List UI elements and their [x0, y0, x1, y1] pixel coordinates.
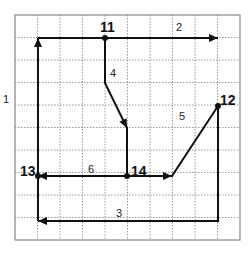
- node-label-11: 11: [100, 20, 115, 34]
- edge-1: [34, 38, 42, 221]
- arrowhead-icon: [34, 38, 42, 47]
- edge-2: [38, 34, 218, 42]
- node-label-13: 13: [20, 164, 36, 178]
- arrowhead-icon: [163, 172, 172, 180]
- node-14: [124, 173, 130, 179]
- graph-diagram: 12345611121314: [0, 0, 252, 262]
- edge-label-5: 5: [179, 111, 185, 122]
- edge-4: [105, 38, 127, 176]
- edge-6: [38, 172, 127, 180]
- node-label-12: 12: [220, 93, 236, 107]
- edge-label-6: 6: [88, 164, 94, 175]
- diagram-canvas: [0, 0, 252, 262]
- node-11: [102, 35, 108, 41]
- arrowhead-icon: [38, 217, 47, 225]
- edge-label-2: 2: [176, 22, 182, 33]
- node-label-14: 14: [131, 164, 147, 178]
- edge-label-4: 4: [110, 68, 116, 79]
- edge-path: [105, 38, 127, 176]
- arrowhead-icon: [209, 34, 218, 42]
- edge-label-3: 3: [116, 208, 122, 219]
- edge-label-1: 1: [3, 94, 9, 105]
